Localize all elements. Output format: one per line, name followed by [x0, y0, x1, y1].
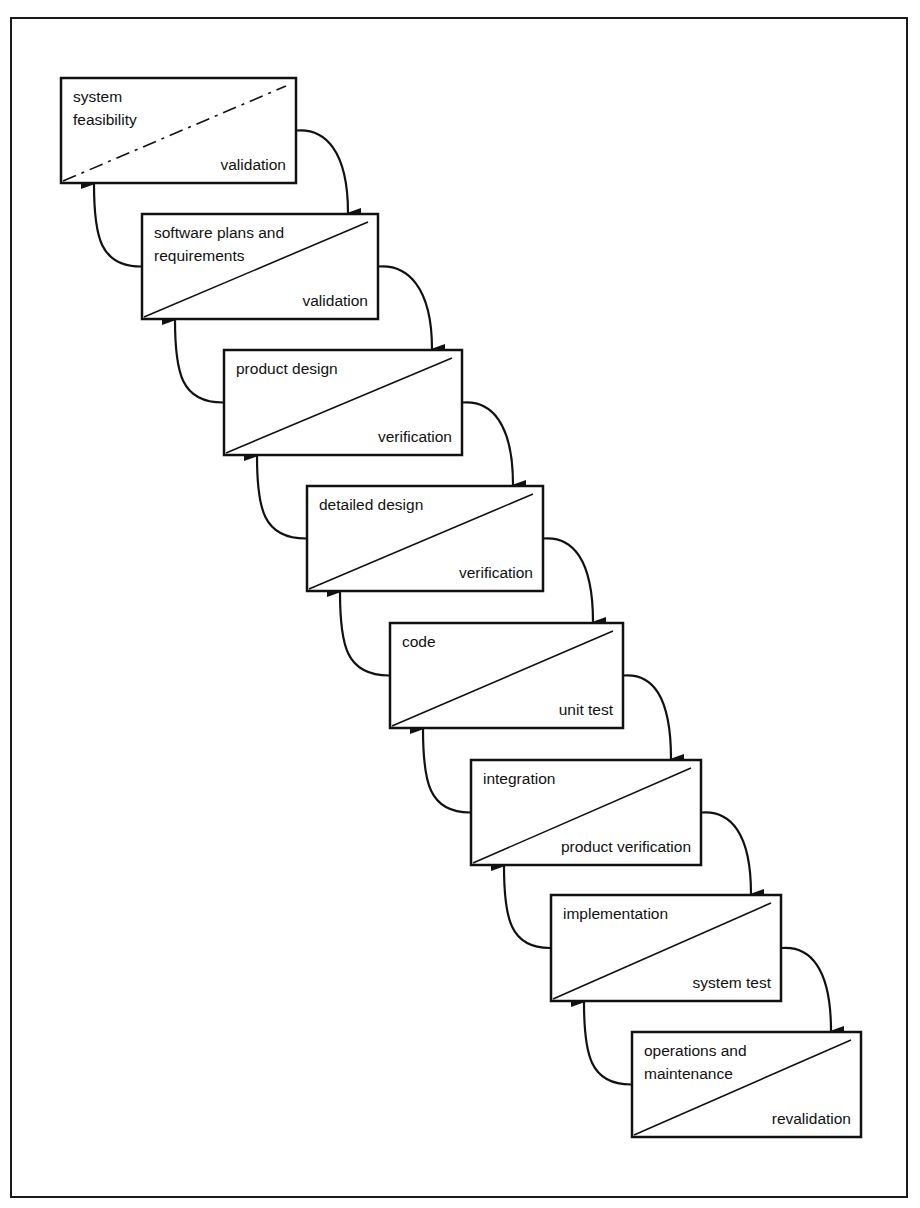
stage-check-label: validation — [221, 156, 287, 173]
stage-check-label: verification — [378, 428, 452, 445]
stage-title: software plans and — [154, 224, 284, 241]
forward-arrow — [544, 538, 593, 622]
waterfall-diagram: systemfeasibilityvalidationsoftware plan… — [0, 0, 920, 1208]
feedback-arrow — [423, 729, 470, 813]
forward-arrow — [782, 948, 831, 1031]
stage-operations-and-maintenance: operations andmaintenancerevalidation — [632, 1032, 861, 1137]
stage-title: operations and — [644, 1042, 747, 1059]
stages-layer: systemfeasibilityvalidationsoftware plan… — [61, 78, 861, 1137]
stage-title: product design — [236, 360, 338, 377]
forward-arrow — [379, 266, 432, 349]
feedback-arrow — [94, 184, 141, 267]
stage-integration: integrationproduct verification — [471, 760, 701, 865]
feedback-arrow — [340, 592, 389, 676]
feedback-arrow — [584, 1002, 631, 1085]
stage-implementation: implementationsystem test — [551, 895, 781, 1001]
forward-arrow — [624, 675, 671, 759]
feedback-arrow — [257, 456, 306, 539]
stage-title: maintenance — [644, 1065, 733, 1082]
stage-software-plans-and-requirements: software plans andrequirementsvalidation — [142, 214, 378, 319]
stage-title: detailed design — [319, 496, 423, 513]
stage-detailed-design: detailed designverification — [307, 486, 543, 591]
stage-title: implementation — [563, 905, 668, 922]
stage-check-label: product verification — [561, 838, 691, 855]
stage-title: code — [402, 633, 436, 650]
stage-check-label: verification — [459, 564, 533, 581]
stage-title: integration — [483, 770, 555, 787]
stage-check-label: unit test — [559, 701, 614, 718]
stage-title: system — [73, 88, 122, 105]
feedback-arrow — [504, 866, 550, 948]
feedback-arrow — [175, 320, 223, 403]
stage-check-label: revalidation — [772, 1110, 851, 1127]
stage-title: requirements — [154, 247, 245, 264]
stage-system-feasibility: systemfeasibilityvalidation — [61, 78, 296, 183]
stage-code: codeunit test — [390, 623, 623, 728]
forward-arrow — [297, 130, 348, 213]
stage-check-label: system test — [693, 974, 772, 991]
forward-arrow — [702, 812, 751, 894]
stage-product-design: product designverification — [224, 350, 462, 455]
stage-check-label: validation — [303, 292, 369, 309]
stage-title: feasibility — [73, 111, 137, 128]
forward-arrow — [463, 402, 513, 485]
